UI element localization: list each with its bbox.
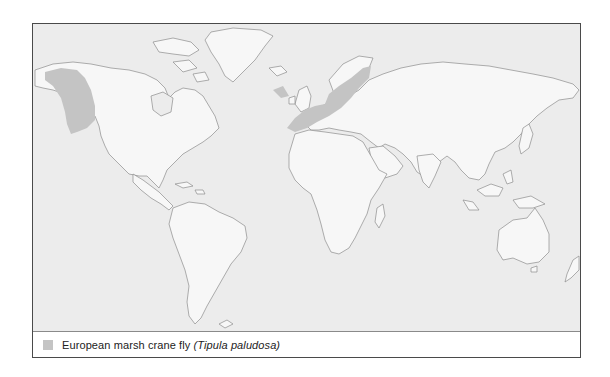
legend: European marsh crane fly (Tipula paludos… bbox=[33, 332, 580, 357]
legend-swatch bbox=[43, 340, 53, 350]
arctic-islands bbox=[153, 38, 199, 56]
map-frame: European marsh crane fly (Tipula paludos… bbox=[32, 23, 581, 358]
legend-label: European marsh crane fly (Tipula paludos… bbox=[62, 339, 280, 351]
british-isles bbox=[295, 86, 311, 112]
greenland bbox=[205, 28, 273, 82]
madagascar bbox=[375, 204, 385, 228]
legend-common-name: European marsh crane fly bbox=[62, 339, 190, 351]
world-map-svg bbox=[33, 24, 580, 331]
new-zealand bbox=[565, 256, 579, 282]
australia bbox=[497, 208, 549, 264]
iceland bbox=[269, 66, 287, 76]
legend-scientific-name: (Tipula paludosa) bbox=[194, 339, 281, 351]
south-america bbox=[169, 202, 247, 324]
india bbox=[417, 154, 441, 188]
world-map bbox=[33, 24, 580, 332]
